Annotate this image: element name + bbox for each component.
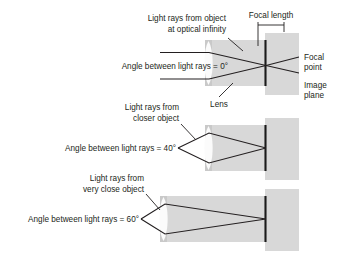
leader-object-very-close (146, 194, 160, 210)
panel-closer: Light rays from closer object Angle betw… (65, 103, 299, 180)
object-label-2-line1: Light rays from (125, 103, 179, 112)
image-plane-label-line2: plane (304, 91, 324, 100)
light-path-band-2 (205, 125, 265, 171)
object-label-1-line2: at optical infinity (168, 25, 227, 34)
panel-infinity: Focal length Light rays from object at o… (122, 11, 328, 109)
focal-length-label: Focal length (249, 11, 294, 20)
lens-label: Lens (210, 100, 228, 109)
image-plane-block-2 (265, 118, 299, 180)
leader-object-closer (181, 124, 196, 140)
image-plane-label-line1: Image (304, 81, 327, 90)
diagram-canvas: Focal length Light rays from object at o… (0, 0, 347, 255)
light-path-band-3 (160, 196, 265, 242)
focal-point-label-line1: Focal (304, 53, 324, 62)
image-plane-block-3 (265, 189, 299, 251)
angle-label-1: Angle between light rays = 0° (122, 62, 228, 71)
angle-label-2: Angle between light rays = 40° (65, 144, 176, 153)
object-label-2-line2: closer object (133, 114, 180, 123)
object-label-3-line2: very close object (83, 185, 145, 194)
angle-label-3: Angle between light rays = 60° (28, 215, 139, 224)
panel-very-close: Light rays from very close object Angle … (28, 174, 299, 251)
object-label-1-line1: Light rays from object (148, 14, 227, 23)
optics-diagram: Focal length Light rays from object at o… (0, 0, 347, 255)
object-label-3-line1: Light rays from (90, 174, 144, 183)
focal-point-label-line2: point (304, 63, 322, 72)
